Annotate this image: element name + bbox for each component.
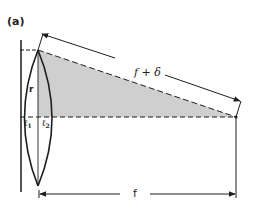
panel-label: (a)	[7, 16, 24, 27]
fd-extension-left	[38, 34, 43, 50]
diagram-svg	[0, 0, 253, 209]
radius-label: r	[29, 85, 33, 94]
f-plus-delta-label: f + δ	[134, 67, 161, 78]
fd-extension-right	[236, 101, 241, 117]
l1-subscript: 1	[27, 122, 31, 129]
lens-diagram: (a) f + δ f r ℓ1 ℓ2	[0, 0, 253, 209]
l1-label: ℓ1	[24, 119, 32, 129]
focal-length-label: f	[133, 188, 137, 199]
fd-arrow-left	[42, 34, 115, 58]
l2-subscript: 2	[45, 122, 49, 129]
l2-label: ℓ2	[42, 119, 50, 129]
